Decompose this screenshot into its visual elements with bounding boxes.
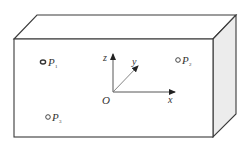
box-top-face [14, 15, 236, 39]
origin-label: O [102, 94, 110, 106]
point-p3-label: P [51, 111, 59, 123]
z-axis-label: z [102, 52, 107, 63]
box-coordinate-diagram: O x y z P 1 P 2 P 3 [0, 0, 248, 149]
y-axis-label: y [131, 56, 137, 67]
point-p2-label: P [181, 54, 189, 66]
x-axis-label: x [167, 94, 173, 105]
point-p1-label: P [47, 56, 55, 68]
